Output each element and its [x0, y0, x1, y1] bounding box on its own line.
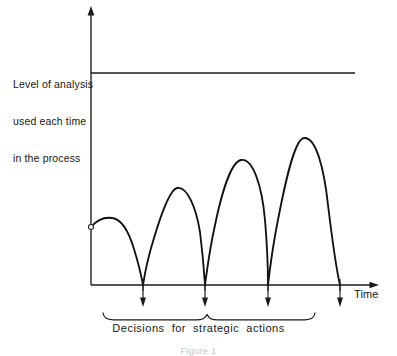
y-axis-label: Level of analysis used each time in the …	[13, 53, 93, 189]
y-axis-label-line-1: Level of analysis	[13, 78, 93, 90]
x-axis	[91, 282, 379, 289]
analysis-level-curve	[91, 138, 340, 285]
y-axis-label-line-2: used each time	[13, 115, 93, 127]
curve-start-marker	[89, 225, 94, 230]
decision-arrow-4	[337, 285, 343, 307]
x-axis-label: Time	[354, 288, 379, 300]
decision-arrow-1	[140, 285, 146, 307]
figure-container: Level of analysis used each time in the …	[0, 0, 397, 356]
decision-arrow-2	[202, 285, 208, 307]
decisions-brace	[103, 313, 315, 320]
figure-caption: Figure 1	[0, 345, 397, 356]
y-axis-arrowhead	[88, 6, 95, 16]
decision-arrow-3	[265, 285, 271, 307]
y-axis-label-line-3: in the process	[13, 152, 93, 164]
brace-caption: Decisions for strategic actions	[0, 322, 397, 334]
